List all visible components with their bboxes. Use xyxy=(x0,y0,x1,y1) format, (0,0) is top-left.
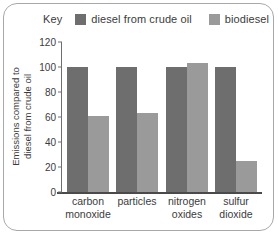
y-axis-title-line-2: diesel from crude oil xyxy=(21,67,33,166)
x-axis-labels: carbonmonoxideparticlesnitrogenoxidessul… xyxy=(57,195,267,229)
bar-series-container xyxy=(62,42,260,192)
y-axis-tick-label: 20 xyxy=(45,162,58,173)
y-axis-tick: 80 xyxy=(45,87,62,98)
legend-label-biodiesel: biodiesel xyxy=(225,13,269,25)
bar-diesel-from-crude-oil xyxy=(166,67,187,192)
bar-biodiesel xyxy=(137,113,158,192)
x-axis-label: sulfurdioxide xyxy=(206,195,266,220)
chart-figure: Key diesel from crude oil biodiesel Emis… xyxy=(0,0,278,235)
legend-swatch-diesel-from-crude-oil xyxy=(75,14,86,25)
x-axis-line xyxy=(57,192,262,194)
bar-group xyxy=(215,42,257,192)
bar-biodiesel xyxy=(88,116,109,192)
plot-area: 020406080100120 xyxy=(62,42,260,192)
x-axis-label-line: dioxide xyxy=(206,208,266,221)
legend-key-label: Key xyxy=(43,13,62,25)
legend-entry-diesel-from-crude-oil: diesel from crude oil xyxy=(75,13,192,25)
bar-group xyxy=(67,42,109,192)
bar-group xyxy=(166,42,208,192)
x-axis-label-line: monoxide xyxy=(58,208,118,221)
legend-label-diesel-from-crude-oil: diesel from crude oil xyxy=(91,13,192,25)
y-axis-tick: 60 xyxy=(45,112,62,123)
y-axis-tick-label: 100 xyxy=(39,62,58,73)
y-axis-tick-label: 40 xyxy=(45,137,58,148)
bar-group xyxy=(116,42,158,192)
bar-diesel-from-crude-oil xyxy=(116,67,137,192)
y-axis-tick: 20 xyxy=(45,162,62,173)
bar-diesel-from-crude-oil xyxy=(67,67,88,192)
x-axis-label-line: sulfur xyxy=(206,195,266,208)
y-axis-tick-label: 120 xyxy=(39,37,58,48)
legend-swatch-biodiesel xyxy=(209,14,220,25)
y-axis-tick-label: 60 xyxy=(45,112,58,123)
y-axis-title: Emissions compared to diesel from crude … xyxy=(8,40,34,192)
y-axis-tick: 120 xyxy=(39,37,62,48)
y-axis-tick-label: 80 xyxy=(45,87,58,98)
chart-legend: Key diesel from crude oil biodiesel xyxy=(0,11,278,27)
bar-diesel-from-crude-oil xyxy=(215,67,236,192)
y-axis-tick: 100 xyxy=(39,62,62,73)
y-axis-title-line-1: Emissions compared to xyxy=(10,67,22,166)
bar-biodiesel xyxy=(187,63,208,192)
legend-entry-biodiesel: biodiesel xyxy=(209,13,269,25)
bar-biodiesel xyxy=(236,161,257,192)
y-axis-tick: 40 xyxy=(45,137,62,148)
